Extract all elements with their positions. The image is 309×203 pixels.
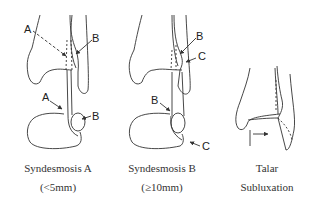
label-b-bottom: B [92, 110, 99, 122]
caption-title: Syndesmosis B [122, 159, 202, 178]
caption-title: Talar [232, 159, 302, 178]
panel-talar-subluxation [236, 66, 295, 150]
tibia-outline [27, 15, 72, 84]
tibia-outline [236, 68, 280, 130]
panel-syndesmosis-a [27, 15, 92, 149]
talus-outline [129, 113, 183, 148]
caption-measure: (<5mm) [18, 178, 98, 197]
fibula-outline [277, 66, 295, 150]
caption-title: Syndesmosis A [18, 159, 98, 178]
label-c-top: C [198, 50, 206, 62]
label-a-top: A [24, 23, 32, 35]
fibula-outline [70, 15, 88, 93]
talus-outline [27, 113, 81, 148]
caption-syndesmosis-b: Syndesmosis B (≥10mm) [122, 159, 202, 197]
panel-syndesmosis-b [129, 15, 200, 149]
caption-measure: (≥10mm) [122, 178, 202, 197]
caption-syndesmosis-a: Syndesmosis A (<5mm) [18, 159, 98, 197]
caption-subtitle: Subluxation [232, 178, 302, 197]
label-b-bottom: B [151, 94, 158, 106]
label-a-bottom: A [42, 91, 50, 103]
label-b-top: B [92, 32, 99, 44]
caption-talar-subluxation: Talar Subluxation [232, 159, 302, 197]
label-b-top: B [196, 30, 203, 42]
label-c-bottom: C [202, 140, 210, 152]
